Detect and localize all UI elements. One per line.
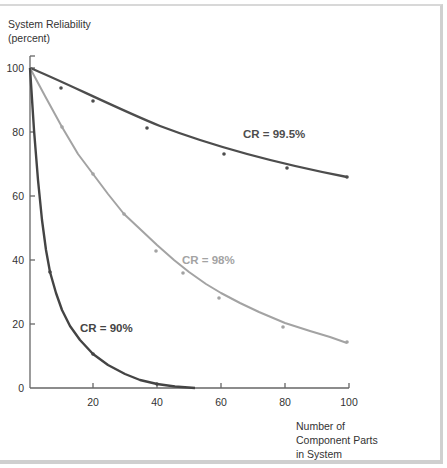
series-cr-98-polyline bbox=[30, 68, 347, 343]
x-tick-60: 60 bbox=[215, 396, 227, 408]
label-cr-98: CR = 98% bbox=[182, 254, 235, 266]
y-axis-title-line2: (percent) bbox=[8, 32, 50, 44]
x-axis-title-line1: Number of bbox=[296, 420, 345, 432]
x-axis-title-line3: in System bbox=[296, 448, 342, 460]
series-cr-98-markers bbox=[60, 125, 349, 344]
x-tick-100: 100 bbox=[340, 396, 358, 408]
y-tick-40: 40 bbox=[12, 254, 24, 266]
y-tick-60: 60 bbox=[12, 190, 24, 202]
x-axis-title-line2: Component Parts bbox=[296, 434, 378, 446]
y-tick-20: 20 bbox=[12, 318, 24, 330]
reliability-chart: System Reliability (percent) 0 20 40 60 … bbox=[0, 0, 447, 468]
x-tick-40: 40 bbox=[151, 396, 163, 408]
y-tick-0: 0 bbox=[18, 382, 24, 394]
label-cr-99-5: CR = 99.5% bbox=[243, 128, 305, 140]
y-axis-title-line1: System Reliability bbox=[8, 18, 92, 30]
x-tick-80: 80 bbox=[279, 396, 291, 408]
x-tick-20: 20 bbox=[87, 396, 99, 408]
y-tick-100: 100 bbox=[6, 62, 24, 74]
series-cr-90-polyline bbox=[30, 68, 195, 388]
series-cr-98-line bbox=[30, 68, 347, 345]
label-cr-90: CR = 90% bbox=[80, 322, 133, 334]
series-cr-99-5-line bbox=[30, 68, 347, 177]
y-tick-80: 80 bbox=[12, 126, 24, 138]
